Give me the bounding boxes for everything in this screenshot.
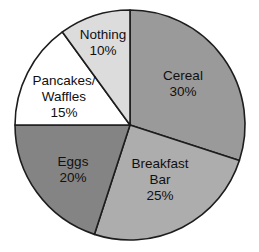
label-line: Nothing (80, 27, 127, 42)
label-line: 25% (146, 188, 173, 203)
label-line: Cereal (163, 68, 203, 83)
pie-slices-group (15, 10, 245, 240)
pie-chart-figure: Cereal30%BreakfastBar25%Eggs20%Pancakes/… (0, 0, 259, 252)
pie-chart-canvas: Cereal30%BreakfastBar25%Eggs20%Pancakes/… (0, 0, 259, 252)
pie-slice-label-eggs: Eggs20% (58, 154, 89, 185)
label-line: Eggs (58, 154, 89, 169)
label-line: 10% (89, 43, 116, 58)
label-line: Pancakes/ (32, 73, 95, 88)
label-line: 15% (50, 105, 77, 120)
label-line: 30% (169, 84, 196, 99)
label-line: Breakfast (131, 156, 188, 171)
label-line: Waffles (42, 89, 87, 104)
label-line: 20% (59, 170, 86, 185)
label-line: Bar (149, 172, 171, 187)
